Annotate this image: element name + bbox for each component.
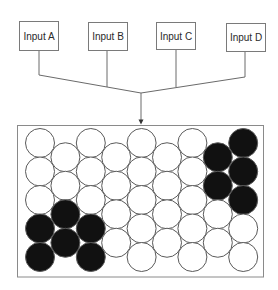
connector-lines xyxy=(39,50,245,120)
input-box-c: Input C xyxy=(156,22,196,50)
empty-circle xyxy=(153,171,182,200)
filled-circle xyxy=(51,200,80,229)
empty-circle xyxy=(178,243,207,272)
empty-circle xyxy=(127,243,156,272)
filled-circle xyxy=(26,214,55,243)
empty-circle xyxy=(178,186,207,215)
input-box-a: Input A xyxy=(19,21,59,51)
empty-circle xyxy=(102,228,131,257)
filled-circle xyxy=(229,186,258,215)
empty-circle xyxy=(203,200,232,229)
input-b-label: Input B xyxy=(92,31,124,42)
empty-circle xyxy=(153,200,182,229)
filled-circle xyxy=(229,129,258,158)
empty-circle xyxy=(76,129,105,158)
empty-circle xyxy=(26,157,55,186)
empty-circle xyxy=(51,171,80,200)
line-from-input-d xyxy=(141,52,245,93)
filled-circle xyxy=(76,214,105,243)
arrowhead-down-icon xyxy=(139,120,144,125)
input-a-label: Input A xyxy=(23,31,54,42)
empty-circle xyxy=(127,129,156,158)
empty-circle xyxy=(127,157,156,186)
empty-circle xyxy=(153,228,182,257)
empty-circle xyxy=(229,214,258,243)
input-c-label: Input C xyxy=(160,31,192,42)
input-box-d: Input D xyxy=(226,23,266,52)
filled-circle xyxy=(203,171,232,200)
empty-circle xyxy=(102,200,131,229)
empty-circle xyxy=(178,129,207,158)
empty-circle xyxy=(51,143,80,172)
empty-circle xyxy=(102,171,131,200)
empty-circle xyxy=(26,186,55,215)
filled-circle xyxy=(76,243,105,272)
empty-circle xyxy=(178,214,207,243)
empty-circle xyxy=(26,129,55,158)
empty-circle xyxy=(203,228,232,257)
empty-circle xyxy=(127,214,156,243)
empty-circle xyxy=(229,243,258,272)
filled-circle xyxy=(203,143,232,172)
empty-circle xyxy=(127,186,156,215)
empty-circle xyxy=(76,186,105,215)
empty-circle xyxy=(153,143,182,172)
filled-circle xyxy=(229,157,258,186)
input-box-b: Input B xyxy=(88,22,128,51)
input-d-label: Input D xyxy=(230,32,262,43)
filled-circle xyxy=(51,228,80,257)
empty-circle xyxy=(178,157,207,186)
empty-circle xyxy=(76,157,105,186)
filled-circle xyxy=(26,243,55,272)
empty-circle xyxy=(102,143,131,172)
line-from-input-a xyxy=(39,51,141,93)
